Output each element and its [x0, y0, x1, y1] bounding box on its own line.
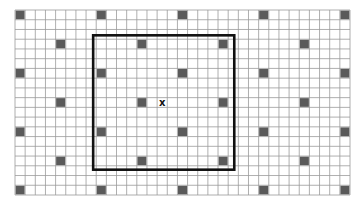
dark-cell [219, 157, 228, 166]
dark-cell [178, 69, 187, 78]
dark-cell [340, 127, 349, 136]
dark-cell [16, 11, 25, 20]
center-marker: x [159, 97, 166, 108]
dark-cell [259, 11, 268, 20]
dark-cell [340, 69, 349, 78]
dark-cell [219, 98, 228, 107]
dark-cell [137, 157, 146, 166]
dark-cell [56, 157, 65, 166]
dark-cell [97, 127, 106, 136]
dark-cell [56, 40, 65, 49]
dark-cell [16, 69, 25, 78]
dark-cell [97, 69, 106, 78]
dark-cell [300, 98, 309, 107]
dark-cell [97, 11, 106, 20]
grid-cells [15, 10, 350, 195]
dark-cell [340, 186, 349, 195]
grid-diagram: x [0, 0, 363, 205]
dark-cell [300, 157, 309, 166]
dark-cell [16, 127, 25, 136]
dark-cell [178, 127, 187, 136]
dark-cell [137, 40, 146, 49]
dark-cell [259, 127, 268, 136]
dark-cell [97, 186, 106, 195]
dark-cell [178, 186, 187, 195]
dark-cell [56, 98, 65, 107]
dark-cell [16, 186, 25, 195]
dark-cell [219, 40, 228, 49]
dark-cell [259, 186, 268, 195]
dark-cell [340, 11, 349, 20]
dark-cell [259, 69, 268, 78]
dark-cell [300, 40, 309, 49]
dark-cell [137, 98, 146, 107]
dark-cell [178, 11, 187, 20]
